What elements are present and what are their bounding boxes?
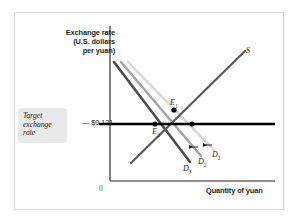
d3-subscript: 3 <box>189 169 192 175</box>
origin-label: 0 <box>99 184 103 193</box>
price-amount: $0.121 <box>91 118 113 127</box>
equilibrium-point-e2 <box>152 121 157 126</box>
y-axis-label: Exchange rate (U.S. dollars per yuan) <box>44 28 115 56</box>
target-rate-value: — $0.121 <box>82 118 113 127</box>
target-exchange-rate-callout: Target exchange rate <box>18 108 67 143</box>
demand-curve-d2 <box>121 62 201 156</box>
supply-curve-label: S <box>246 46 250 55</box>
d2-subscript: 2 <box>204 162 207 168</box>
demand-curve-d1-label: D1 <box>212 150 221 161</box>
d1-subscript: 1 <box>218 155 221 161</box>
demand-d1-target-point <box>189 121 194 126</box>
leader-dash: — <box>82 118 89 127</box>
demand-curve-d3-label: D3 <box>183 164 192 175</box>
y-axis-label-line2: (U.S. dollars <box>73 37 115 46</box>
figure-container: Exchange rate (U.S. dollars per yuan) Qu… <box>0 0 299 224</box>
y-axis-label-line3: per yuan) <box>83 46 115 55</box>
demand-curve-d2-label: D2 <box>198 157 207 168</box>
y-axis-label-line1: Exchange rate <box>66 28 115 37</box>
x-axis-label: Quantity of yuan <box>206 186 282 195</box>
equilibrium-e1-label: E1 <box>170 98 178 109</box>
e2-subscript: 2 <box>157 132 160 138</box>
equilibrium-e2-label: E2 <box>152 127 160 138</box>
callout-line3: rate <box>23 128 35 137</box>
e1-subscript: 1 <box>175 103 178 109</box>
